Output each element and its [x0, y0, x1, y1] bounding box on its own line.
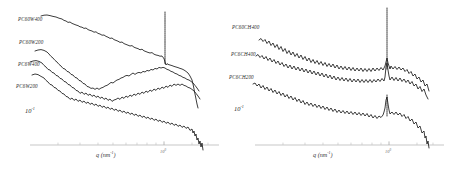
plot-panel-right: PC60CH400 PC6CH400 PC6CH200 10-1 100 q (… [229, 0, 458, 175]
x-axis-title-tail: ) [114, 151, 116, 158]
x-axis-title-tail: ) [331, 151, 333, 158]
y-decade-label-left: 10-1 [25, 108, 35, 114]
x-axis-title-right: q (nm-1) [313, 152, 333, 158]
series-label-pc6ch200: PC6CH200 [229, 75, 254, 80]
series-label-pc6ch400: PC6CH400 [231, 52, 256, 57]
series-label-pc6w200: PC6W200 [16, 84, 38, 89]
x-axis-title-left: q (nm-1) [96, 152, 116, 158]
series-label-pc6w400: PC6W400 [18, 62, 40, 67]
x-axis-ticks-right [283, 141, 433, 145]
y-decade-exponent: -1 [31, 106, 34, 111]
x-axis-ticks-left [58, 141, 208, 145]
plot-right-svg [229, 0, 458, 175]
x-axis-title-main: q (nm [313, 151, 327, 158]
x-tick-label-left: 100 [160, 150, 166, 155]
curve-pc6w200 [32, 74, 203, 150]
figure-container: PC60W400 PC60W200 PC6W400 PC6W200 10-1 1… [0, 0, 458, 175]
curve-pc6ch400 [256, 55, 428, 100]
x-tick-label-right: 100 [385, 150, 391, 155]
series-label-pc60w200: PC60W200 [19, 40, 43, 45]
plot-panel-left: PC60W400 PC60W200 PC6W400 PC6W200 10-1 1… [0, 0, 229, 175]
series-label-pc60ch400: PC60CH400 [232, 25, 259, 30]
curve-pc6ch200 [253, 83, 429, 148]
curve-pc60ch400 [259, 39, 429, 92]
x-tick-exponent: 0 [389, 148, 391, 152]
series-label-pc60w400: PC60W400 [18, 17, 42, 22]
x-axis-title-main: q (nm [96, 151, 110, 158]
x-tick-exponent: 0 [164, 148, 166, 152]
y-decade-exponent: -1 [240, 104, 243, 109]
y-decade-label-right: 10-1 [234, 106, 244, 112]
